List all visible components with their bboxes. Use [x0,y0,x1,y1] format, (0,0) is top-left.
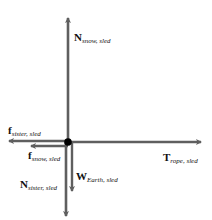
force-w-earth-sled: WEarth, sled [72,142,118,191]
force-t-rope-sled: Trope, sled [68,142,201,165]
force-f-snow-sled: fsnow, sled [28,146,68,163]
sled-point [64,138,72,146]
label-f-sister-sled: fsister, sled [8,124,41,138]
force-f-sister-sled: fsister, sled [8,124,68,141]
label-f-snow-sled: fsnow, sled [28,149,61,163]
force-n-snow-sled: Nsnow, sled [68,18,111,142]
free-body-diagram: Nsnow, sled Trope, sled fsister, sled fs… [0,0,212,220]
label-n-snow-sled: Nsnow, sled [74,31,111,45]
label-w-earth-sled: WEarth, sled [76,170,118,184]
label-n-sister-sled: Nsister, sled [20,178,58,192]
force-n-sister-sled: Nsister, sled [20,142,66,216]
label-t-rope-sled: Trope, sled [163,151,198,165]
